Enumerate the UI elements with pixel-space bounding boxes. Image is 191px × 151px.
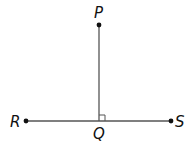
perpendicular-lines-diagram: P Q R S xyxy=(0,0,191,151)
label-s: S xyxy=(175,113,185,131)
right-angle-marker-icon xyxy=(99,115,105,121)
label-r: R xyxy=(10,113,20,131)
label-p: P xyxy=(94,4,104,22)
point-p xyxy=(97,23,102,28)
point-s xyxy=(169,119,174,124)
label-q: Q xyxy=(93,125,105,143)
point-r xyxy=(24,119,29,124)
